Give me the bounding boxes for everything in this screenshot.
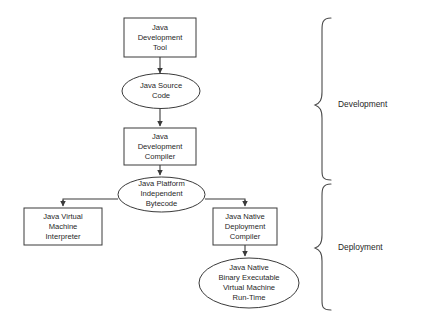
node-label-line: Virtual Machine (223, 283, 275, 292)
node-label-line: Machine (49, 222, 78, 231)
node-label-line: Code (152, 91, 170, 100)
node-label-line: Development (138, 142, 184, 151)
node-label-line: Java (152, 132, 169, 141)
java-flow-diagram: Java Development Tool Java Source Code J… (0, 0, 425, 325)
node-java-platform-independent-bytecode[interactable]: Java Platform Independent Bytecode (118, 177, 205, 212)
node-label-line: Compiler (145, 152, 176, 161)
deployment-brace: Deployment (315, 184, 383, 310)
node-label-line: Independent (140, 189, 183, 198)
node-java-native-deployment-compiler[interactable]: Java Native Deployment Compiler (213, 208, 277, 245)
node-java-native-binary-executable[interactable]: Java Native Binary Executable Virtual Ma… (199, 258, 299, 308)
node-java-development-compiler[interactable]: Java Development Compiler (124, 128, 196, 165)
node-label-line: Bytecode (146, 199, 178, 208)
development-brace-label: Development (338, 99, 388, 109)
node-label-line: Java Native (229, 263, 269, 272)
node-java-virtual-machine-interpreter[interactable]: Java Virtual Machine Interpreter (24, 208, 102, 245)
node-java-source-code[interactable]: Java Source Code (122, 74, 200, 109)
node-label-line: Java (152, 23, 169, 32)
deployment-brace-label: Deployment (338, 242, 383, 252)
node-label-line: Java Virtual (43, 212, 83, 221)
node-label-line: Compiler (230, 232, 261, 241)
node-label-line: Java Native (225, 212, 265, 221)
node-java-development-tool[interactable]: Java Development Tool (124, 18, 196, 57)
node-label-line: Java Platform (138, 179, 184, 188)
node-label-line: Run-Time (232, 293, 265, 302)
node-label-line: Interpreter (45, 232, 81, 241)
node-label-line: Development (138, 33, 184, 42)
node-label-line: Java Source (140, 81, 182, 90)
node-label-line: Binary Executable (218, 273, 279, 282)
node-label-line: Tool (153, 43, 167, 52)
connector-bytecode-to-interpreter (63, 199, 118, 206)
connector-bytecode-to-native-compiler (205, 199, 245, 206)
development-brace: Development (315, 18, 388, 180)
diagram-canvas: Java Development Tool Java Source Code J… (0, 0, 425, 325)
node-label-line: Deployment (225, 222, 266, 231)
